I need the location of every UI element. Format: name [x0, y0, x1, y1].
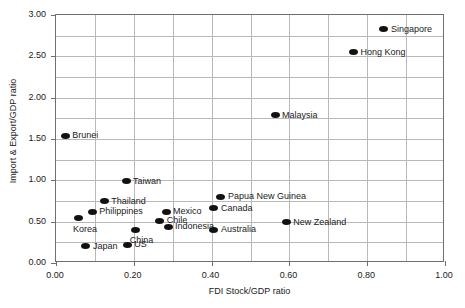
x-axis-tick-label: 0.00 — [31, 271, 79, 280]
gridline-horizontal — [56, 36, 443, 37]
x-axis-tick-label: 0.40 — [187, 271, 235, 280]
y-axis-tick — [51, 180, 56, 181]
y-axis-tick — [51, 222, 56, 223]
gridline-horizontal — [56, 222, 443, 223]
x-axis-title: FDI Stock/GDP ratio — [55, 286, 444, 296]
y-axis-tick — [51, 15, 56, 16]
data-point — [122, 178, 131, 184]
data-point — [271, 112, 280, 118]
x-axis-tick-label: 0.20 — [109, 271, 157, 280]
plot-area: SingaporeHong KongMalaysiaBruneiTaiwanPa… — [55, 14, 444, 262]
x-axis-tick — [134, 261, 135, 266]
data-point — [164, 224, 173, 230]
y-axis-tick-label: 0.50 — [0, 217, 46, 226]
y-axis-tick — [51, 98, 56, 99]
x-axis-tick — [56, 261, 57, 266]
x-axis-tick-label: 0.60 — [264, 271, 312, 280]
data-point-label: Hong Kong — [361, 48, 406, 57]
y-axis-tick-label: 1.50 — [0, 134, 46, 143]
data-point-label: Japan — [93, 242, 118, 251]
data-point-label: Australia — [221, 225, 256, 234]
data-point-label: US — [134, 240, 147, 249]
data-point — [216, 194, 225, 200]
data-point — [155, 218, 164, 224]
data-point — [379, 26, 388, 32]
data-point — [100, 198, 109, 204]
data-point — [131, 227, 140, 233]
y-axis-tick-label: 2.00 — [0, 93, 46, 102]
data-point-label: Thailand — [111, 197, 146, 206]
gridline-horizontal — [56, 118, 443, 119]
y-axis-tick — [51, 139, 56, 140]
data-point — [81, 243, 90, 249]
x-axis-tick — [445, 261, 446, 266]
data-point — [74, 215, 83, 221]
data-point-label: New Zealand — [293, 218, 346, 227]
data-point — [349, 49, 358, 55]
gridline-vertical — [406, 15, 407, 261]
data-point-label: Brunei — [72, 131, 98, 140]
data-point — [123, 242, 132, 248]
gridline-horizontal — [56, 98, 443, 99]
data-point-label: Canada — [221, 204, 253, 213]
data-point-label: Philippines — [99, 207, 143, 216]
x-axis-tick-label: 0.80 — [342, 271, 390, 280]
data-point — [88, 209, 97, 215]
gridline-horizontal — [56, 160, 443, 161]
y-axis-tick-label: 0.00 — [0, 258, 46, 267]
data-point-label: Korea — [73, 225, 97, 234]
data-point-label: Indonesia — [175, 222, 214, 231]
data-point-label: Singapore — [391, 25, 432, 34]
y-axis-tick-label: 2.50 — [0, 51, 46, 60]
gridline-horizontal — [56, 180, 443, 181]
data-point — [209, 205, 218, 211]
data-point-label: Malaysia — [282, 111, 318, 120]
gridline-horizontal — [56, 77, 443, 78]
gridline-vertical — [134, 15, 135, 261]
scatter-chart: Import & Export/GDP ratio SingaporeHong … — [0, 0, 465, 308]
y-axis-tick — [51, 56, 56, 57]
data-point — [61, 133, 70, 139]
y-axis-tick-label: 3.00 — [0, 10, 46, 19]
data-point — [209, 227, 218, 233]
gridline-horizontal — [56, 139, 443, 140]
data-point-label: Papua New Guinea — [228, 192, 306, 201]
x-axis-tick — [289, 261, 290, 266]
data-point — [162, 209, 171, 215]
y-axis-tick-label: 1.00 — [0, 175, 46, 184]
data-point-label: Taiwan — [133, 177, 161, 186]
x-axis-tick-label: 1.00 — [420, 271, 465, 280]
x-axis-tick — [212, 261, 213, 266]
x-axis-tick — [367, 261, 368, 266]
